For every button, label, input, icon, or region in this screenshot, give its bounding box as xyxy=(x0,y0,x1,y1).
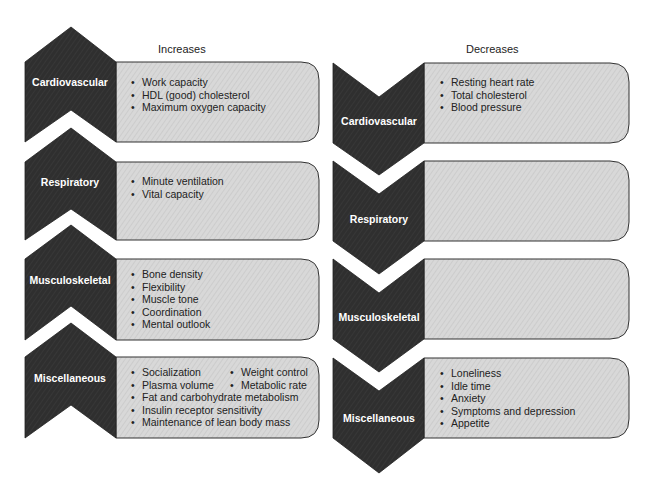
increases-musculoskeletal-label: Musculoskeletal xyxy=(24,274,116,286)
list-item: Idle time xyxy=(440,380,575,393)
decreases-musculoskeletal-label: Musculoskeletal xyxy=(333,311,425,323)
list-item: Maintenance of lean body mass xyxy=(131,416,290,429)
list-item: HDL (good) cholesterol xyxy=(131,89,266,102)
list-item: Loneliness xyxy=(440,367,575,380)
list-item: Coordination xyxy=(131,306,210,319)
increases-miscellaneous-label: Miscellaneous xyxy=(24,372,116,384)
increases-miscellaneous-list: Socialization Weight control Plasma volu… xyxy=(131,366,308,429)
list-item: Weight control xyxy=(230,366,308,379)
list-item: Blood pressure xyxy=(440,101,534,114)
increases-cardiovascular-label: Cardiovascular xyxy=(24,76,116,88)
increases-cardiovascular-list: Work capacity HDL (good) cholesterol Max… xyxy=(131,76,266,114)
decreases-miscellaneous-label: Miscellaneous xyxy=(333,412,425,424)
increases-heading: Increases xyxy=(158,43,206,55)
decreases-musculoskeletal-box xyxy=(424,259,629,339)
list-item: Bone density xyxy=(131,268,210,281)
decreases-respiratory-box xyxy=(424,161,629,241)
list-item: Muscle tone xyxy=(131,293,210,306)
list-item: Fat and carbohydrate metabolism xyxy=(131,391,298,404)
list-item: Total cholesterol xyxy=(440,89,534,102)
increases-respiratory-list: Minute ventilation Vital capacity xyxy=(131,175,224,200)
decreases-cardiovascular-label: Cardiovascular xyxy=(333,115,425,127)
list-item: Appetite xyxy=(440,417,575,430)
list-item: Insulin receptor sensitivity xyxy=(131,404,262,417)
list-item: Work capacity xyxy=(131,76,266,89)
increases-musculoskeletal-list: Bone density Flexibility Muscle tone Coo… xyxy=(131,268,210,331)
exercise-effects-diagram: Increases Decreases Cardiovascular Respi… xyxy=(0,0,649,491)
list-item: Maximum oxygen capacity xyxy=(131,101,266,114)
increases-respiratory-box xyxy=(116,162,319,240)
list-item: Flexibility xyxy=(131,281,210,294)
list-item: Anxiety xyxy=(440,392,575,405)
list-item: Minute ventilation xyxy=(131,175,224,188)
list-item: Vital capacity xyxy=(131,188,224,201)
decreases-heading: Decreases xyxy=(466,43,519,55)
list-item: Mental outlook xyxy=(131,318,210,331)
list-item: Socialization xyxy=(131,366,230,379)
list-item: Plasma volume xyxy=(131,379,230,392)
list-item: Resting heart rate xyxy=(440,76,534,89)
decreases-respiratory-label: Respiratory xyxy=(333,213,425,225)
decreases-miscellaneous-list: Loneliness Idle time Anxiety Symptoms an… xyxy=(440,367,575,430)
decreases-cardiovascular-list: Resting heart rate Total cholesterol Blo… xyxy=(440,76,534,114)
increases-respiratory-label: Respiratory xyxy=(24,176,116,188)
list-item: Metabolic rate xyxy=(230,379,307,392)
list-item: Symptoms and depression xyxy=(440,405,575,418)
